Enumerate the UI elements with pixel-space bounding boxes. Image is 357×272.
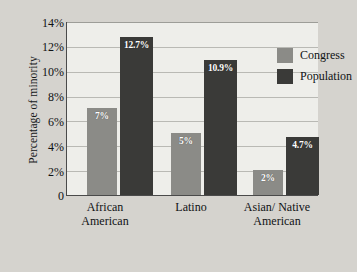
bar-value-label: 10.9% (204, 63, 237, 73)
x-category-line-1: Latino (148, 201, 234, 215)
bar-value-label: 5% (171, 136, 201, 146)
y-tick-2: 2% (24, 167, 64, 177)
bar-population-latino[interactable]: 10.9% (204, 60, 237, 195)
x-category-line-2: American (62, 215, 148, 229)
bar-value-label: 4.7% (286, 140, 319, 150)
gridline-14 (67, 22, 318, 23)
bar-value-label: 2% (253, 173, 283, 183)
y-tick-10: 10% (24, 67, 64, 77)
x-category-label-african-american: African American (62, 201, 148, 228)
x-category-label-latino: Latino (148, 201, 234, 215)
chart-legend: Congress Population (277, 46, 357, 88)
bar-congress-latino[interactable]: 5% (171, 133, 201, 195)
bar-value-label: 7% (87, 111, 117, 121)
legend-item-congress[interactable]: Congress (277, 46, 357, 65)
bar-population-african-american[interactable]: 12.7% (120, 37, 153, 195)
gridline-8 (67, 97, 318, 98)
y-tick-6: 6% (24, 117, 64, 127)
y-tick-12: 12% (24, 42, 64, 52)
legend-item-population[interactable]: Population (277, 67, 357, 86)
y-tick-8: 8% (24, 92, 64, 102)
y-tick-0: 0 (24, 191, 64, 201)
legend-label-congress: Congress (300, 48, 345, 63)
y-tick-14: 14% (24, 18, 64, 28)
bar-population-asian-native-american[interactable]: 4.7% (286, 137, 319, 195)
legend-swatch-congress (277, 48, 293, 63)
x-category-line-1: Asian/ Native (228, 201, 326, 215)
x-category-line-1: African (62, 201, 148, 215)
legend-swatch-population (277, 69, 293, 84)
y-tick-4: 4% (24, 142, 64, 152)
legend-label-population: Population (300, 69, 352, 84)
x-category-label-asian-native-american: Asian/ Native American (228, 201, 326, 228)
x-category-line-2: American (228, 215, 326, 229)
bar-congress-african-american[interactable]: 7% (87, 108, 117, 195)
bar-congress-asian-native-american[interactable]: 2% (253, 170, 283, 195)
bar-value-label: 12.7% (120, 40, 153, 50)
plot-area: 7% 12.7% 5% 10.9% 2% 4.7% Congress Popul… (66, 22, 318, 196)
